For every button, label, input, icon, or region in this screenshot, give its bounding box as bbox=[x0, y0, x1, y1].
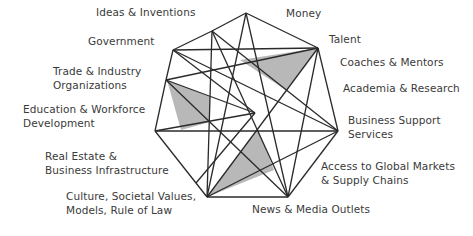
label-government: Government bbox=[88, 34, 154, 48]
shaded-region bbox=[207, 129, 274, 197]
label-coaches: Coaches & Mentors bbox=[340, 55, 444, 69]
edge-gov-trade bbox=[166, 50, 173, 80]
edge-gov-talent bbox=[173, 48, 318, 50]
label-academia: Academia & Research bbox=[343, 81, 460, 95]
label-bss1: Business Support bbox=[348, 113, 441, 127]
edge-ideas-bss bbox=[212, 31, 338, 131]
label-re2: Business Infrastructure bbox=[45, 163, 169, 177]
label-edu1: Education & Workforce bbox=[23, 102, 145, 116]
edge-top-ideas bbox=[212, 13, 246, 31]
label-re1: Real Estate & bbox=[45, 149, 117, 163]
edge-ideas-gov bbox=[173, 31, 212, 50]
label-access1: Access to Global Markets bbox=[321, 159, 455, 173]
label-access2: & Supply Chains bbox=[321, 173, 409, 187]
edge-bss-culture bbox=[207, 131, 338, 197]
label-culture1: Culture, Societal Values, bbox=[66, 189, 196, 203]
label-edu2: Development bbox=[23, 116, 95, 130]
edge-bss-talent bbox=[318, 48, 338, 131]
label-talent: Talent bbox=[329, 32, 361, 46]
label-ideas: Ideas & Inventions bbox=[96, 5, 195, 19]
label-news: News & Media Outlets bbox=[252, 202, 370, 216]
label-trade2: Organizations bbox=[53, 78, 127, 92]
label-trade1: Trade & Industry bbox=[53, 64, 141, 78]
label-culture2: Models, Rule of Law bbox=[66, 203, 172, 217]
edge-trade-left bbox=[155, 80, 166, 131]
label-money: Money bbox=[286, 6, 321, 20]
label-bss2: Services bbox=[348, 127, 393, 141]
